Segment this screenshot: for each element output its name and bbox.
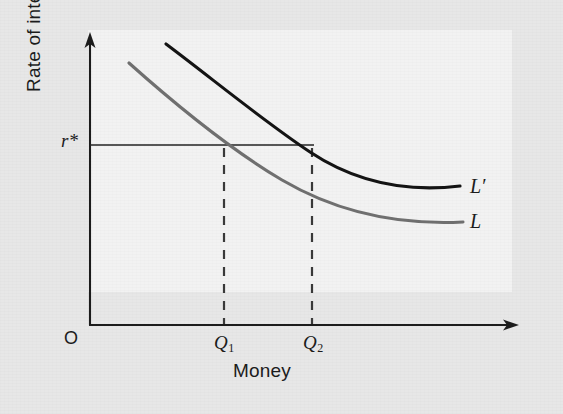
interest-rate-label: r* <box>61 131 78 150</box>
q2-label: Q2 <box>303 333 323 352</box>
q1-label: Q1 <box>214 333 234 352</box>
y-axis-label: Rate of interest <box>24 0 43 92</box>
q1-label-base: Q <box>214 332 228 353</box>
diagram-canvas <box>0 0 563 414</box>
q2-label-base: Q <box>303 332 317 353</box>
curve-l-label: L <box>470 211 481 231</box>
q2-label-subscript: 2 <box>317 341 323 355</box>
curve-l-prime-label: L′ <box>470 176 486 196</box>
figure-root: Rate of interest Money O r* Q1 Q2 L′ L <box>0 0 563 414</box>
origin-label: O <box>64 329 78 347</box>
x-axis-label: Money <box>233 361 291 380</box>
q1-label-subscript: 1 <box>228 341 234 355</box>
